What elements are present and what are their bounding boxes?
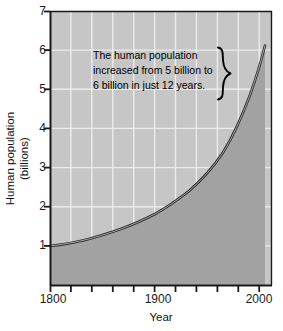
- y-tick-label-3: 3: [30, 161, 46, 173]
- y-tick-label-5: 5: [30, 83, 46, 95]
- y-axis-title: Human population (billions): [4, 94, 31, 224]
- y-tick-label-4: 4: [30, 122, 46, 134]
- y-tick-label-6: 6: [30, 44, 46, 56]
- annotation-brace-icon: [216, 46, 232, 102]
- y-tick-label-7: 7: [30, 5, 46, 17]
- x-axis-title: Year: [50, 311, 272, 323]
- y-tick-label-2: 2: [30, 200, 46, 212]
- x-tick-label-1800: 1800: [33, 293, 73, 305]
- y-tick-label-1: 1: [30, 239, 46, 251]
- x-tick-label-1900: 1900: [138, 293, 178, 305]
- x-tick-label-2000: 2000: [239, 293, 279, 305]
- population-growth-chart: 7 6 5 4 3 2 1 1800 1900 2000 Human popul…: [0, 0, 283, 331]
- chart-annotation-text: The human population increased from 5 bi…: [93, 48, 215, 93]
